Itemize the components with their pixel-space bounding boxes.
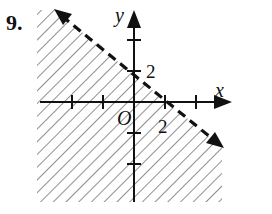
x-tick-label: 2 [158, 116, 168, 137]
problem-number: 9. [6, 10, 23, 35]
y-axis-arrow-icon [127, 10, 141, 28]
y-axis-label: y [113, 4, 124, 27]
shaded-region [37, 8, 227, 204]
origin-label: O [117, 107, 131, 129]
x-axis-label: x [214, 79, 224, 101]
y-tick-label: 2 [146, 61, 156, 82]
inequality-graph: 9. y x O 2 2 [0, 0, 272, 214]
